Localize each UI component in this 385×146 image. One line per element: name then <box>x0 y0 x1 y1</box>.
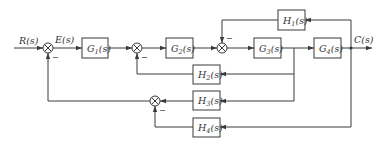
block-g2: G2(s) <box>166 38 195 58</box>
block-h2: H2(s) <box>193 65 223 84</box>
summing-junction-3: − <box>217 34 233 53</box>
block-h1: H1(s) <box>278 10 308 30</box>
summing-junction-2: − <box>132 43 148 62</box>
block-g3: G3(s) <box>254 38 283 58</box>
h4-in-line <box>220 48 351 127</box>
block-h3: H3(s) <box>193 91 223 110</box>
block-g4: G4(s) <box>314 38 343 58</box>
block-g1: G1(s) <box>82 38 111 58</box>
s1-minus-sign: − <box>52 53 59 62</box>
s4-out-line <box>48 53 150 101</box>
output-label: C(s) <box>354 34 374 45</box>
s3-minus-sign: − <box>226 34 233 43</box>
input-label: R(s) <box>18 35 39 46</box>
summing-junction-4: − <box>150 96 166 115</box>
s4-minus-sign: − <box>159 106 166 115</box>
block-h4: H4(s) <box>193 118 223 137</box>
summing-junction-1: − <box>43 43 59 62</box>
block-diagram: − − − − G1(s) G2(s) G3(s) G4(s) H1(s) H2… <box>0 0 385 146</box>
error-label: E(s) <box>54 34 75 45</box>
s2-minus-sign: − <box>141 53 148 62</box>
